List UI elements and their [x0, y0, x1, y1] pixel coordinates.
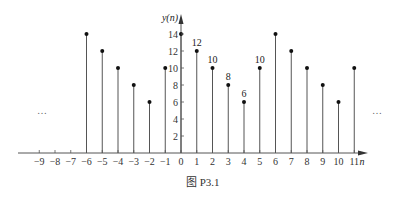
stem-marker: [289, 49, 293, 53]
x-tick-label: 8: [305, 156, 310, 167]
x-tick-label: 2: [210, 156, 215, 167]
x-tick-label: −8: [50, 156, 61, 167]
x-tick-label: −5: [97, 156, 108, 167]
stem-marker: [132, 83, 136, 87]
y-axis-label: y(n): [161, 12, 179, 24]
y-tick-label: 10: [168, 63, 178, 74]
x-tick-label: 11: [349, 156, 359, 167]
y-ticks: 2468101214: [168, 29, 184, 142]
stem-marker: [226, 83, 230, 87]
x-axis-arrow-icon: [358, 151, 368, 156]
x-tick-label: −3: [128, 156, 139, 167]
stem-marker: [116, 66, 120, 70]
x-tick-label: −9: [34, 156, 45, 167]
x-tick-label: 7: [289, 156, 294, 167]
y-tick-label: 6: [173, 97, 178, 108]
ellipsis-right: …: [372, 105, 382, 116]
stem-plot: −9−8−7−6−5−4−3−2−101234567891011 2468101…: [0, 0, 409, 198]
data-label: 10: [255, 54, 265, 65]
stem-marker: [163, 66, 167, 70]
data-label: 10: [208, 54, 218, 65]
y-tick-label: 4: [173, 114, 178, 125]
data-label: 8: [226, 71, 231, 82]
x-tick-label: −2: [144, 156, 155, 167]
x-tick-label: −7: [65, 156, 76, 167]
stem-marker: [148, 100, 152, 104]
stem-marker: [352, 66, 356, 70]
y-tick-label: 2: [173, 131, 178, 142]
y-axis-arrow-icon: [179, 14, 184, 24]
x-tick-label: −1: [160, 156, 171, 167]
x-tick-label: 3: [226, 156, 231, 167]
y-tick-label: 14: [168, 29, 178, 40]
stem-marker: [85, 32, 89, 36]
stem-marker: [305, 66, 309, 70]
x-tick-label: 4: [242, 156, 247, 167]
x-tick-label: 0: [179, 156, 184, 167]
x-tick-label: 6: [273, 156, 278, 167]
ellipsis-left: …: [37, 105, 47, 116]
stem-marker: [337, 100, 341, 104]
stem-marker: [258, 66, 262, 70]
x-tick-label: 10: [334, 156, 344, 167]
figure-caption: 图 P3.1: [186, 176, 220, 188]
data-label: 12: [192, 37, 202, 48]
stem-marker: [211, 66, 215, 70]
x-tick-label: 9: [320, 156, 325, 167]
stem-marker: [100, 49, 104, 53]
stems: [85, 32, 357, 153]
x-tick-label: −4: [113, 156, 124, 167]
x-axis-label: n: [360, 156, 365, 167]
y-tick-label: 8: [173, 80, 178, 91]
x-tick-label: 1: [194, 156, 199, 167]
axes: [18, 14, 368, 156]
stem-marker: [274, 32, 278, 36]
stem-marker: [242, 100, 246, 104]
stem-marker: [195, 49, 199, 53]
y-tick-label: 12: [168, 46, 178, 57]
data-label: 6: [242, 88, 247, 99]
x-tick-label: −6: [81, 156, 92, 167]
x-tick-label: 5: [257, 156, 262, 167]
stem-marker: [321, 83, 325, 87]
